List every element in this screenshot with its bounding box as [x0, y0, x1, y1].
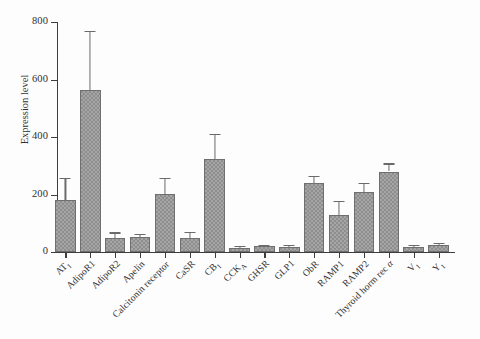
x-tick-mark: [190, 253, 191, 258]
x-tick-mark: [215, 253, 216, 258]
x-axis-label: Y1: [430, 258, 447, 275]
bar-group[interactable]: [428, 22, 449, 252]
error-bar-cap: [85, 31, 96, 32]
bar[interactable]: [403, 247, 424, 252]
bar-group[interactable]: [204, 22, 225, 252]
error-bar-cap: [433, 243, 444, 244]
y-tick-label: 0: [0, 245, 48, 256]
bar[interactable]: [80, 90, 101, 252]
error-bar-stem: [363, 183, 364, 192]
bar-group[interactable]: [254, 22, 275, 252]
x-tick-mark: [439, 253, 440, 258]
x-tick-mark: [314, 253, 315, 258]
bar[interactable]: [155, 194, 176, 252]
y-tick-label: 200: [0, 188, 48, 199]
bar-group[interactable]: [329, 22, 350, 252]
bar[interactable]: [229, 248, 250, 252]
y-axis-title: Expression level: [19, 50, 30, 170]
error-bar-cap: [60, 178, 71, 179]
bar-group[interactable]: [304, 22, 325, 252]
bar-group[interactable]: [229, 22, 250, 252]
bar[interactable]: [254, 246, 275, 252]
error-bar-cap: [110, 232, 121, 233]
x-axis-line: [57, 252, 455, 253]
error-bar-cap: [383, 163, 394, 164]
error-bar-stem: [214, 134, 215, 160]
x-axis-label: ObR: [300, 258, 321, 279]
error-bar-cap: [184, 232, 195, 233]
error-bar-cap: [209, 134, 220, 135]
x-axis-label: CB1: [202, 258, 224, 280]
bar[interactable]: [329, 215, 350, 252]
y-tick-label: 400: [0, 130, 48, 141]
x-axis-label: CaSR: [173, 258, 197, 282]
bar-chart-figure: Expression level 0200400600800 AT1AdipoR…: [0, 0, 480, 339]
error-bar-stem: [339, 201, 340, 215]
error-bar-stem: [90, 31, 91, 91]
bar[interactable]: [379, 172, 400, 253]
x-tick-mark: [364, 253, 365, 258]
x-tick-mark: [90, 253, 91, 258]
x-tick-mark: [339, 253, 340, 258]
x-axis-label: GLP1: [272, 258, 296, 282]
error-bar-cap: [234, 246, 245, 247]
error-bar-cap: [309, 176, 320, 177]
bar-group[interactable]: [155, 22, 176, 252]
error-bar-cap: [408, 245, 419, 246]
error-bar-stem: [164, 178, 165, 194]
bar-group[interactable]: [80, 22, 101, 252]
bar-group[interactable]: [105, 22, 126, 252]
bar[interactable]: [204, 159, 225, 252]
bar-group[interactable]: [279, 22, 300, 252]
bar-group[interactable]: [354, 22, 375, 252]
error-bar-cap: [334, 201, 345, 202]
error-bar-stem: [65, 178, 66, 200]
x-tick-mark: [289, 253, 290, 258]
error-bar-cap: [259, 245, 270, 246]
y-tick-label: 800: [0, 15, 48, 26]
x-tick-mark: [165, 253, 166, 258]
x-tick-mark: [264, 253, 265, 258]
x-axis-label: V1: [405, 258, 422, 275]
bar[interactable]: [130, 237, 151, 252]
bar-group[interactable]: [180, 22, 201, 252]
x-axis-label: GHSR: [245, 258, 271, 284]
bar[interactable]: [279, 247, 300, 252]
error-bar-cap: [284, 245, 295, 246]
y-tick-label: 600: [0, 73, 48, 84]
x-tick-mark: [65, 253, 66, 258]
x-tick-mark: [115, 253, 116, 258]
bar[interactable]: [180, 238, 201, 252]
bar[interactable]: [55, 200, 76, 252]
bar[interactable]: [428, 245, 449, 252]
x-tick-mark: [140, 253, 141, 258]
bar-group[interactable]: [55, 22, 76, 252]
plot-area: [57, 22, 455, 252]
x-tick-mark: [240, 253, 241, 258]
bar-group[interactable]: [130, 22, 151, 252]
bar-group[interactable]: [403, 22, 424, 252]
x-tick-mark: [414, 253, 415, 258]
bar[interactable]: [354, 192, 375, 252]
bar-group[interactable]: [379, 22, 400, 252]
x-axis-label: CCKA: [221, 258, 249, 286]
error-bar-cap: [159, 178, 170, 179]
x-axis-label: RAMP1: [315, 258, 346, 289]
bar[interactable]: [105, 238, 126, 252]
bar[interactable]: [304, 183, 325, 252]
error-bar-stem: [388, 163, 389, 171]
x-tick-mark: [389, 253, 390, 258]
error-bar-cap: [358, 183, 369, 184]
error-bar-cap: [135, 234, 146, 235]
